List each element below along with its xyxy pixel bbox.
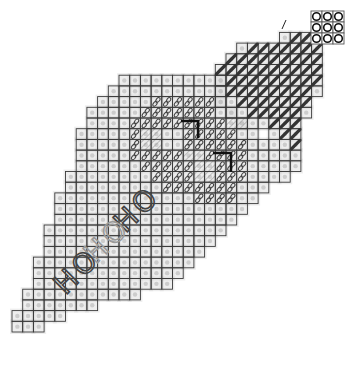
grid-dot	[144, 89, 148, 93]
grid-dot	[240, 185, 244, 189]
grid-dot	[229, 110, 233, 114]
grid-dot	[79, 153, 83, 157]
hatched-cell	[140, 139, 151, 150]
grid-dot	[261, 175, 265, 179]
grid-dot	[144, 239, 148, 243]
circle-key-grid	[311, 11, 344, 44]
grid-dot	[197, 239, 201, 243]
grid-dot	[144, 260, 148, 264]
small-tick-mark	[282, 20, 286, 29]
grid-dot	[144, 175, 148, 179]
grid-dot	[293, 153, 297, 157]
grid-dot	[111, 100, 115, 104]
grid-dot	[111, 164, 115, 168]
hatched-cell	[194, 161, 205, 172]
grid-dot	[122, 260, 126, 264]
grid-dot	[229, 100, 233, 104]
grid-dot	[58, 217, 62, 221]
grid-dot	[111, 260, 115, 264]
grid-dot	[218, 78, 222, 82]
grid-dot	[154, 185, 158, 189]
grid-dot	[208, 207, 212, 211]
grid-dot	[79, 196, 83, 200]
grid-dot	[144, 228, 148, 232]
grid-dot	[37, 260, 41, 264]
grid-dot	[79, 185, 83, 189]
grid-dot	[144, 78, 148, 82]
grid-dot	[15, 314, 19, 318]
grid-dot	[111, 175, 115, 179]
grid-dot	[283, 175, 287, 179]
grid-dot	[165, 228, 169, 232]
hatched-cell	[237, 118, 248, 129]
grid-dot	[111, 143, 115, 147]
grid-dot	[111, 89, 115, 93]
grid-dot	[154, 282, 158, 286]
grid-dot	[293, 164, 297, 168]
grid-dot	[122, 100, 126, 104]
grid-dot	[261, 153, 265, 157]
grid-dot	[251, 153, 255, 157]
grid-dot	[79, 228, 83, 232]
grid-dot	[58, 196, 62, 200]
grid-dot	[69, 185, 73, 189]
tick-mark-icon	[282, 20, 286, 29]
grid-dot	[186, 239, 190, 243]
grid-dot	[186, 78, 190, 82]
grid-dot	[37, 303, 41, 307]
grid-dot	[58, 207, 62, 211]
grid-dot	[186, 217, 190, 221]
hatched-cell	[205, 161, 216, 172]
grid-dot	[154, 228, 158, 232]
hatched-cell	[140, 129, 151, 140]
grid-dot	[144, 271, 148, 275]
grid-dot	[165, 207, 169, 211]
grid-dot	[272, 164, 276, 168]
grid-dot	[154, 260, 158, 264]
grid-dot	[37, 282, 41, 286]
grid-dot	[251, 132, 255, 136]
grid-dot	[208, 239, 212, 243]
grid-dot	[165, 250, 169, 254]
grid-dot	[133, 260, 137, 264]
grid-dot	[47, 239, 51, 243]
grid-dot	[101, 185, 105, 189]
grid-dot	[229, 217, 233, 221]
grid-dot	[197, 217, 201, 221]
grid-dot	[122, 110, 126, 114]
grid-dot	[240, 110, 244, 114]
grid-dot	[283, 143, 287, 147]
grid-dot	[133, 282, 137, 286]
grid-dot	[122, 292, 126, 296]
grid-dot	[283, 36, 287, 40]
grid-dot	[90, 132, 94, 136]
hatched-cell	[151, 139, 162, 150]
grid-dot	[101, 175, 105, 179]
grid-dot	[58, 250, 62, 254]
grid-dot	[154, 271, 158, 275]
grid-dot	[47, 303, 51, 307]
grid-dot	[176, 228, 180, 232]
grid-dot	[58, 314, 62, 318]
grid-dot	[69, 175, 73, 179]
grid-dot	[101, 282, 105, 286]
grid-dot	[26, 303, 30, 307]
grid-dot	[144, 250, 148, 254]
grid-dot	[133, 250, 137, 254]
grid-dot	[79, 175, 83, 179]
grid-dot	[176, 132, 180, 136]
grid-dot	[144, 100, 148, 104]
grid-dot	[90, 282, 94, 286]
grid-dot	[165, 143, 169, 147]
grid-dot	[90, 217, 94, 221]
grid-dot	[197, 89, 201, 93]
grid-dot	[186, 89, 190, 93]
grid-dot	[251, 121, 255, 125]
grid-dot	[186, 260, 190, 264]
grid-dot	[251, 196, 255, 200]
stitch-chart-canvas: HOHOHO	[0, 0, 359, 366]
grid-dot	[154, 89, 158, 93]
hatched-cell	[194, 150, 205, 161]
grid-dot	[251, 143, 255, 147]
grid-dot	[176, 217, 180, 221]
